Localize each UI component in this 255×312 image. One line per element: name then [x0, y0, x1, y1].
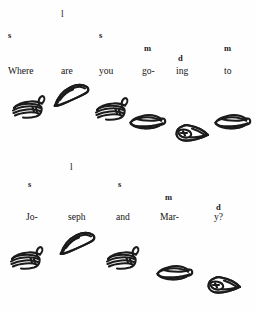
gloss-word: ing	[176, 66, 188, 76]
gloss-word: you	[99, 66, 113, 76]
nonmanual-marker: l	[70, 163, 73, 173]
nonmanual-marker: s	[118, 180, 121, 189]
gloss-word: to	[224, 66, 231, 76]
gloss-word: go-	[142, 66, 155, 76]
nonmanual-marker: s	[99, 31, 102, 40]
gloss-word: and	[116, 212, 130, 222]
gloss-word: are	[61, 66, 73, 76]
nonmanual-marker: d	[178, 54, 183, 63]
gloss-word: Jo-	[26, 212, 38, 222]
flat-hand-left-icon	[213, 111, 251, 133]
claw-hand-left-icon	[173, 121, 213, 145]
flat-hand-right-icon	[10, 95, 50, 121]
gloss-word: Where	[8, 66, 34, 76]
flat-hand-right-icon	[93, 97, 133, 123]
flat-hand-right-icon	[104, 246, 144, 272]
gloss-word: y?	[214, 212, 223, 222]
nonmanual-marker: m	[165, 193, 172, 202]
nonmanual-marker: m	[224, 44, 231, 53]
nonmanual-marker: l	[61, 10, 64, 20]
claw-hand-left-icon	[205, 273, 245, 297]
flat-hand-left-icon	[155, 262, 193, 284]
tapered-hand-icon	[52, 82, 94, 108]
flat-hand-left-icon	[128, 111, 166, 133]
gloss-word: seph	[68, 212, 86, 222]
nonmanual-marker: s	[8, 31, 11, 40]
notation-sheet: slsmdmWhereareyougo-ingto	[0, 0, 255, 312]
tapered-hand-icon	[58, 230, 100, 256]
nonmanual-marker: m	[144, 44, 151, 53]
nonmanual-marker: s	[28, 180, 31, 189]
gloss-word: Mar-	[160, 212, 179, 222]
flat-hand-right-icon	[8, 246, 48, 272]
